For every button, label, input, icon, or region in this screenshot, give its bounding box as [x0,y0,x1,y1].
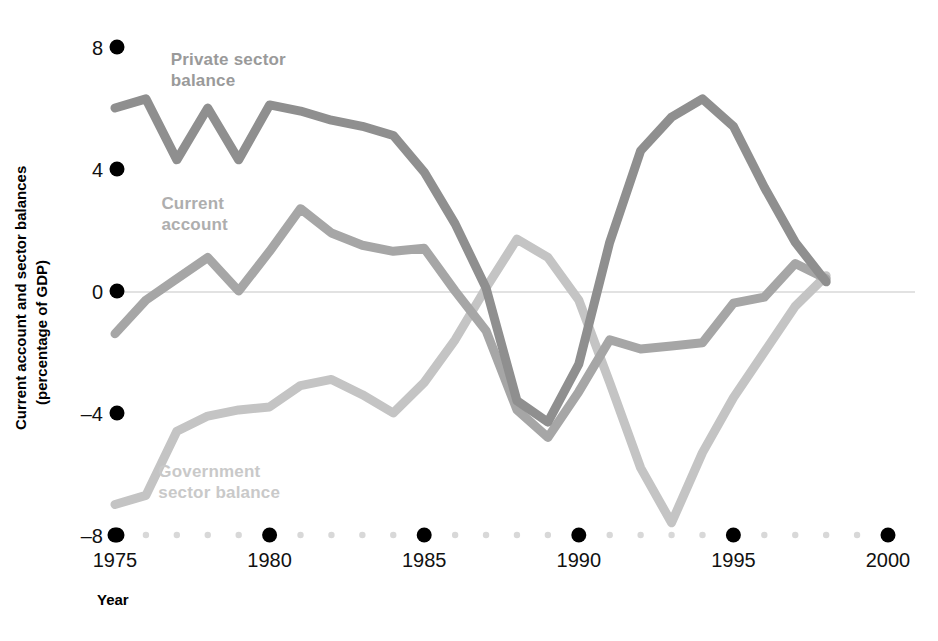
x-minor-tick-dot [607,532,613,538]
y-tick-dot [110,162,125,177]
x-minor-tick-dot [792,532,798,538]
x-minor-tick-dot [823,532,829,538]
x-tick-label: 1975 [93,549,138,571]
x-tick-label: 1980 [247,549,292,571]
x-axis-title: Year [97,591,129,608]
x-minor-tick-dot [390,532,396,538]
x-tick-label: 1995 [711,549,756,571]
x-minor-tick-dot [668,532,674,538]
x-minor-tick-dot [545,532,551,538]
x-tick-dot [108,528,123,543]
x-minor-tick-dot [514,532,520,538]
x-minor-tick-dot [699,532,705,538]
x-minor-tick-dot [483,532,489,538]
series-label-government-sector-balance: sector balance [158,483,280,502]
x-tick-label: 1990 [557,549,602,571]
x-minor-tick-dot [297,532,303,538]
chart-figure: 840–4–8 197519801985199019952000 Private… [0,0,938,641]
x-tick-dot [881,528,896,543]
x-tick-label: 2000 [866,549,911,571]
x-minor-tick-dot [235,532,241,538]
y-tick-dot [110,40,125,55]
y-axis-title-line1: Current account and sector balances [12,166,29,430]
series-label-private-sector-balance: Private sector [171,50,286,69]
x-tick-dot [417,528,432,543]
y-tick-label: 4 [92,159,103,181]
y-tick-label: 8 [92,37,103,59]
x-tick-dot [726,528,741,543]
x-minor-tick-dot [452,532,458,538]
series-label-current-account: Current [161,194,224,213]
x-minor-tick-dot [174,532,180,538]
x-tick-dot [571,528,586,543]
x-minor-tick-dot [359,532,365,538]
x-minor-tick-dot [143,532,149,538]
x-minor-tick-dot [328,532,334,538]
series-label-current-account: account [161,215,228,234]
series-label-private-sector-balance: balance [171,71,236,90]
y-tick-dot [110,406,125,421]
x-tick-dot [262,528,277,543]
x-minor-tick-dot [761,532,767,538]
y-tick-dot [110,284,125,299]
y-tick-label: 0 [92,281,103,303]
x-minor-tick-dot [637,532,643,538]
x-minor-tick-dot [205,532,211,538]
x-tick-label: 1985 [402,549,447,571]
series-label-government-sector-balance: Government [158,462,260,481]
y-tick-label: –4 [81,403,103,425]
y-axis-title-line2: (percentage of GDP) [33,260,50,405]
y-tick-label: –8 [81,525,103,547]
x-minor-tick-dot [854,532,860,538]
